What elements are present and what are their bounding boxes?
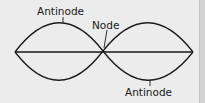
wave-loop-left-lower — [15, 51, 103, 80]
antinode-bottom-label: Antinode — [125, 86, 172, 98]
node-label: Node — [92, 19, 119, 31]
node-leader — [104, 30, 107, 48]
antinode-top-label: Antinode — [37, 5, 84, 17]
right-edge-panel — [199, 0, 205, 103]
wave-loop-right-lower — [103, 51, 193, 80]
wave-loop-left-upper — [15, 23, 103, 52]
standing-wave-diagram: Antinode Node Antinode — [0, 0, 205, 103]
